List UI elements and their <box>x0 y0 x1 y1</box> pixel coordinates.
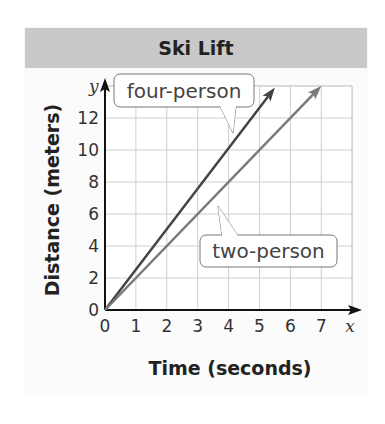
y-tick-label: 6 <box>88 204 99 224</box>
x-axis-title: Time (seconds) <box>148 357 311 379</box>
x-tick-label: 2 <box>161 316 172 336</box>
x-tick-label: 7 <box>316 316 327 336</box>
callout-four-person-label: four-person <box>127 79 242 103</box>
x-tick-label: 3 <box>192 316 203 336</box>
y-tick-label: 10 <box>77 140 99 160</box>
y-axis-title: Distance (meters) <box>41 104 63 297</box>
x-variable-label: x <box>345 316 355 336</box>
y-tick-label: 2 <box>88 268 99 288</box>
y-tick-label: 12 <box>77 108 99 128</box>
x-tick-label: 1 <box>130 316 141 336</box>
x-tick-label: 6 <box>285 316 296 336</box>
y-tick-label: 8 <box>88 172 99 192</box>
x-tick-label: 5 <box>254 316 265 336</box>
y-tick-label: 4 <box>88 236 99 256</box>
x-tick-label: 0 <box>100 316 111 336</box>
y-variable-label: y <box>88 76 99 96</box>
y-tick-label: 0 <box>88 300 99 320</box>
x-tick-label: 4 <box>223 316 234 336</box>
callout-two-person-label: two-person <box>212 239 325 263</box>
